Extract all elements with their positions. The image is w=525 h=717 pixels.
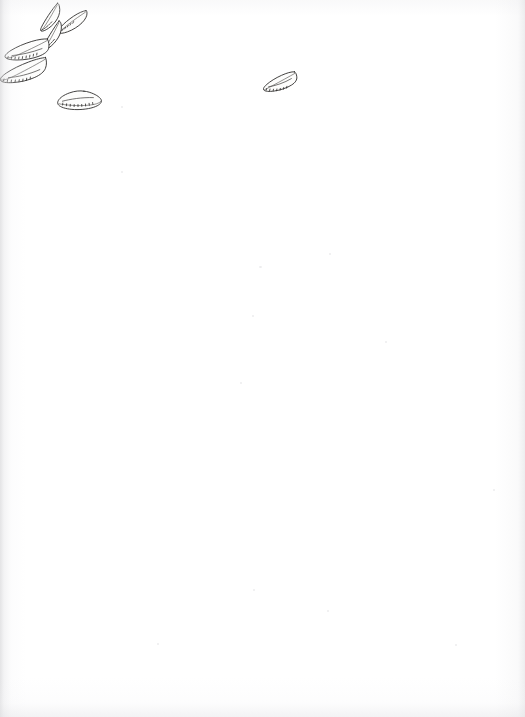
specimen-5 [0, 58, 46, 83]
specimen-7 [263, 72, 296, 92]
specimen-2 [58, 11, 87, 34]
scanned-page [0, 0, 525, 717]
specimen-4 [5, 39, 49, 60]
specimen-6 [58, 91, 102, 110]
specimen-plate [0, 0, 525, 717]
